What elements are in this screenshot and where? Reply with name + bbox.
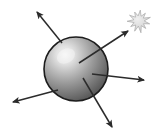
sphere-radiation-diagram: Sphere emitting radiating arrows toward … — [0, 0, 156, 136]
figure-canvas: Sphere emitting radiating arrows toward … — [0, 0, 156, 136]
